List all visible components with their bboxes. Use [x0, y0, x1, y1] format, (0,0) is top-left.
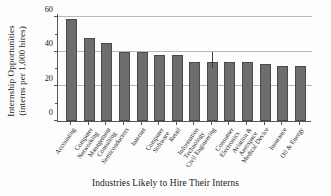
bar-slot [239, 14, 257, 121]
bar-chart-figure: Internship Opportunities (interns per 1,… [0, 0, 331, 196]
bar-slot [221, 14, 239, 121]
bar[interactable] [172, 55, 183, 121]
bar-slot [204, 14, 222, 121]
bar-slot [256, 14, 274, 121]
x-axis-tick-mark [141, 122, 142, 125]
y-axis-tick-label: 20 [45, 74, 53, 82]
bar[interactable] [260, 64, 271, 121]
y-axis-tick-label: 0 [49, 109, 53, 117]
x-axis-tick-mark [193, 122, 194, 125]
x-axis-tick-mark [264, 122, 265, 125]
bar[interactable] [66, 19, 77, 121]
y-axis-title: Internship Opportunities (interns per 1,… [6, 9, 36, 133]
bar[interactable] [154, 55, 165, 121]
x-axis-title: Industries Likely to Hire Their Interns [0, 178, 331, 188]
bar-slot [98, 14, 116, 121]
bar-slot [133, 14, 151, 121]
bar-slot [81, 14, 99, 121]
x-axis-tick-mark [281, 122, 282, 125]
x-axis-tick-mark [123, 122, 124, 125]
plot-inner: 0204060 [58, 14, 311, 121]
bar[interactable] [119, 52, 130, 121]
bar[interactable] [295, 66, 306, 121]
y-axis-title-line2: (interns per 1,000 hires) [17, 9, 28, 133]
plot-area: 0204060 [57, 14, 311, 122]
x-axis-tick-mark [88, 122, 89, 125]
y-axis-title-line1: Internship Opportunities [6, 9, 17, 133]
bar-series [58, 14, 312, 121]
error-bar [212, 52, 213, 68]
bar-slot [168, 14, 186, 121]
bar-slot [63, 14, 81, 121]
x-axis-tick-mark [246, 122, 247, 125]
x-axis-tick-mark [105, 122, 106, 125]
bar[interactable] [84, 38, 95, 121]
bar-slot [151, 14, 169, 121]
x-axis-tick-mark [70, 122, 71, 125]
bar-slot [292, 14, 310, 121]
bar[interactable] [277, 66, 288, 121]
y-axis-tick-label: 60 [45, 5, 53, 13]
bar-slot [116, 14, 134, 121]
bar[interactable] [242, 62, 253, 121]
x-axis-tick-mark [158, 122, 159, 125]
x-axis-tick-mark [176, 122, 177, 125]
y-axis-tick-label: 40 [45, 40, 53, 48]
bar[interactable] [207, 62, 218, 121]
bar[interactable] [137, 52, 148, 121]
bar-slot [186, 14, 204, 121]
bar[interactable] [189, 62, 200, 121]
bar[interactable] [224, 62, 235, 121]
x-axis-tick-mark [299, 122, 300, 125]
x-axis-tick-mark [228, 122, 229, 125]
x-axis-tick-mark [211, 122, 212, 125]
x-axis-tick-labels: AccountingComputerNetworkingManagementCo… [57, 123, 311, 175]
bar-slot [274, 14, 292, 121]
bar[interactable] [101, 43, 112, 121]
